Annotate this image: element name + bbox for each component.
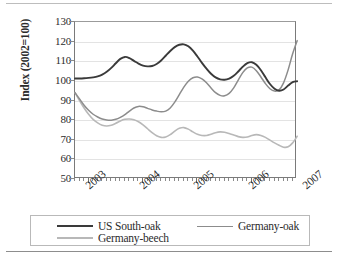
legend-item-us-south-oak[interactable]: US South-oak	[57, 220, 160, 232]
legend-item-germany-oak[interactable]: Germany-oak	[197, 220, 299, 232]
plot-area	[74, 21, 296, 178]
legend-swatch-line	[57, 225, 93, 227]
bottom-divider-rule	[6, 251, 332, 252]
y-axis-tick-labels: 5060708090100110120130	[38, 21, 71, 178]
legend-swatch-line	[197, 226, 233, 227]
chart-figure: Index (2002=100) 5060708090100110120130 …	[0, 0, 338, 260]
series-line	[75, 41, 297, 121]
legend-item-germany-beech[interactable]: Germany-beech	[57, 232, 169, 244]
x-tick-label: 2007	[300, 168, 325, 191]
series-lines	[75, 22, 297, 179]
legend-swatch-line	[57, 237, 93, 239]
y-axis-title: Index (2002=100)	[19, 0, 31, 135]
legend-label: Germany-oak	[238, 220, 299, 232]
x-axis-tick-labels: 20032004200520062007	[0, 178, 338, 214]
legend-label: US South-oak	[98, 220, 160, 232]
chart-legend: US South-oak Germany-oak Germany-beech	[30, 215, 310, 246]
top-divider-rule	[6, 3, 332, 4]
legend-label: Germany-beech	[98, 232, 169, 244]
